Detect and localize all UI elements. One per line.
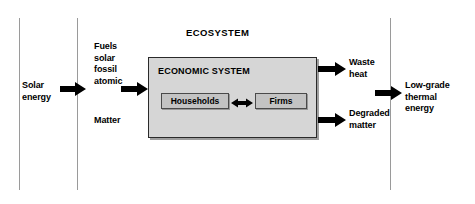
matter-label: Matter	[94, 115, 144, 127]
waste-heat-arrow	[318, 62, 346, 76]
households-firms-exchange-arrow	[231, 95, 253, 107]
ecosystem-label: ECOSYSTEM	[186, 27, 249, 38]
ecosystem-left-boundary-line	[77, 18, 78, 190]
households-box: Households	[161, 93, 229, 109]
degraded-matter-arrow	[318, 113, 346, 127]
diagram-canvas: ECOSYSTEM Solar energy Fuels solar fossi…	[0, 0, 475, 204]
low-grade-thermal-energy-label: Low-grade thermal energy	[405, 80, 465, 115]
low-grade-thermal-energy-arrow	[375, 86, 402, 100]
waste-heat-label: Waste heat	[349, 57, 395, 80]
ecosystem-right-boundary-line	[390, 18, 391, 190]
firms-box: Firms	[255, 93, 307, 109]
economic-system-label: ECONOMIC SYSTEM	[158, 66, 250, 76]
outer-left-boundary-line	[19, 18, 20, 190]
degraded-matter-label: Degraded matter	[349, 108, 403, 131]
economic-system-box: ECONOMIC SYSTEM Households Firms	[148, 57, 317, 138]
fuels-arrow	[121, 82, 148, 96]
fuels-label: Fuels solar fossil atomic	[94, 41, 142, 87]
solar-energy-arrow	[60, 82, 86, 96]
